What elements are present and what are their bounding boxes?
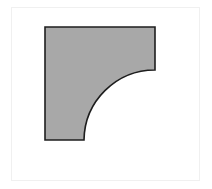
quarter-circle-fillet-shape xyxy=(45,27,155,140)
geometric-figure xyxy=(0,0,212,189)
image-canvas xyxy=(0,0,212,189)
